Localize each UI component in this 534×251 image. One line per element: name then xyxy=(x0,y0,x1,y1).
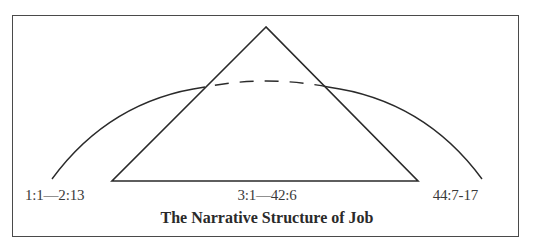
arc-right-segment xyxy=(328,87,482,179)
diagram-caption: The Narrative Structure of Job xyxy=(0,210,534,226)
arc-dashed-segment xyxy=(205,81,328,87)
epilogue-label: 44:7-17 xyxy=(433,188,478,203)
triangle xyxy=(112,27,418,181)
